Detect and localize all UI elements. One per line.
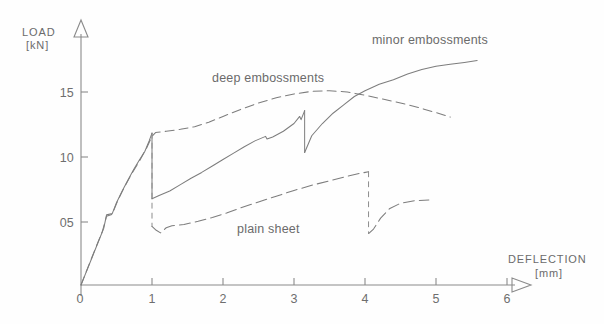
y-axis-ticks: 15 10 05 [60, 86, 88, 230]
x-tick-label-5: 5 [432, 292, 439, 306]
label-deep-embossments: deep embossments [212, 71, 324, 85]
y-tick-label-05: 05 [60, 216, 74, 230]
axis-group [74, 20, 531, 296]
x-axis-ticks: 0 1 2 3 4 5 6 [76, 278, 510, 306]
label-plain-sheet: plain sheet [237, 222, 300, 236]
chart-figure: 15 10 05 0 1 2 3 4 5 6 LOAD [kN] DEFLECT… [0, 0, 604, 324]
load-deflection-plot: 15 10 05 0 1 2 3 4 5 6 LOAD [kN] DEFLECT… [0, 0, 604, 324]
series-curves [81, 60, 477, 285]
label-minor-embossments: minor embossments [372, 33, 488, 47]
x-tick-label-6: 6 [503, 292, 510, 306]
y-tick-label-15: 15 [60, 86, 74, 100]
curve-minor-embossments [81, 60, 477, 285]
y-axis-title: LOAD [kN] [22, 26, 56, 51]
y-axis-title-line2: [kN] [26, 39, 49, 51]
curve-deep-embossments [81, 91, 450, 285]
x-tick-label-0: 0 [76, 292, 83, 306]
y-tick-label-10: 10 [60, 151, 74, 165]
x-axis-title-line1: DEFLECTION [508, 253, 587, 265]
series-annotations: minor embossments deep embossments plain… [212, 33, 488, 236]
x-tick-label-3: 3 [290, 292, 297, 306]
x-axis-title: DEFLECTION [mm] [508, 253, 587, 279]
x-tick-label-1: 1 [148, 292, 155, 306]
x-tick-label-2: 2 [219, 292, 226, 306]
x-axis-title-line2: [mm] [535, 267, 563, 279]
y-axis-title-line1: LOAD [22, 26, 56, 38]
x-tick-label-4: 4 [361, 292, 368, 306]
